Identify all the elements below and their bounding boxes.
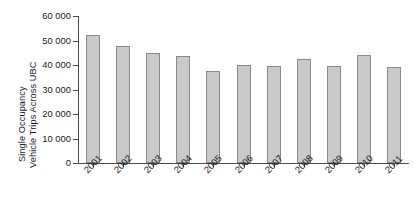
bar [327, 66, 341, 163]
y-axis-tick-label: 50 000 [13, 36, 71, 45]
bar [86, 35, 100, 163]
bar-chart-figure: Single Occupancy Vehicle Trips Across UB… [0, 0, 414, 216]
bar [116, 46, 130, 163]
bar [237, 65, 251, 163]
y-axis-tick-label: 20 000 [13, 109, 71, 118]
y-axis-tick-label: 10 000 [13, 134, 71, 143]
y-axis-tick-label: 0 [13, 158, 71, 167]
bar [267, 66, 281, 163]
x-axis-tick-labels: 2001200220032004200520062007200820092010… [78, 168, 409, 214]
bar [387, 67, 401, 163]
y-axis-tick-label: 30 000 [13, 85, 71, 94]
y-axis-tick-label: 60 000 [13, 11, 71, 20]
bar [176, 56, 190, 163]
bars-container [78, 16, 409, 163]
y-axis-tick-labels: 010 00020 00030 00040 00050 00060 000 [10, 0, 71, 180]
y-axis-tick-label: 40 000 [13, 60, 71, 69]
bar [206, 71, 220, 163]
bar [146, 53, 160, 163]
bar [297, 59, 311, 163]
bar [357, 55, 371, 163]
